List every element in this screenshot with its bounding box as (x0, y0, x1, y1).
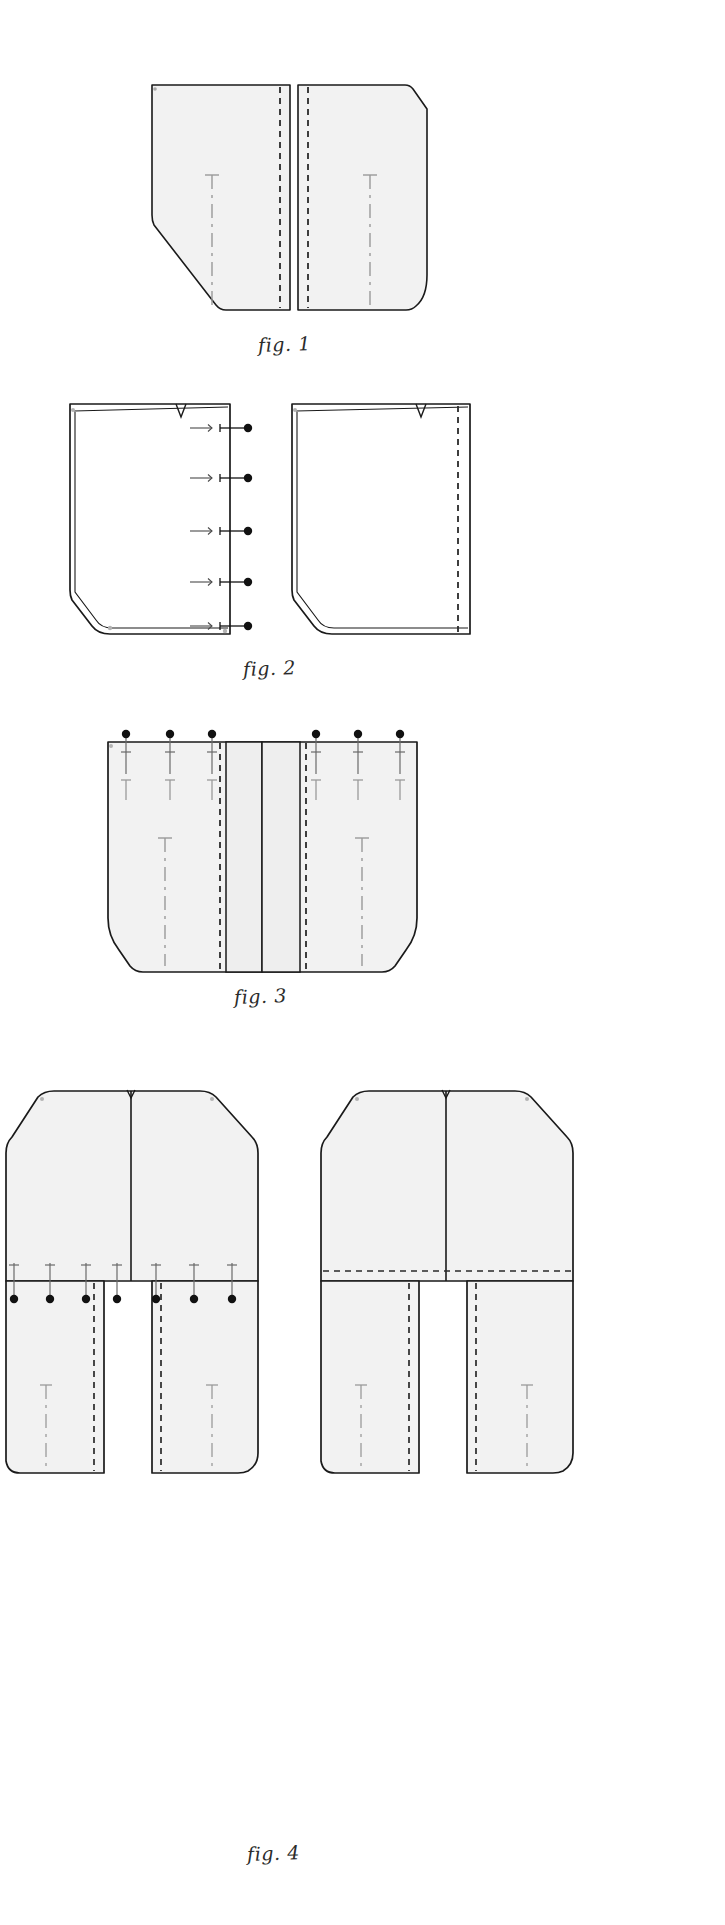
fig4-right-legs (321, 1281, 573, 1473)
figure-3-illustration (100, 728, 425, 986)
fig1-left-corner-dot (153, 87, 157, 91)
fig4-left-bodice (6, 1090, 258, 1281)
fig1-left-piece (152, 85, 290, 310)
figure-2-caption: fig. 2 (243, 656, 297, 680)
pattern-sheet: fig. 1 (0, 0, 725, 1925)
fig3-band-left (226, 742, 262, 972)
figure-4-left-illustration (0, 1085, 270, 1480)
fig3-band-right (262, 742, 300, 972)
fig1-right-piece (298, 85, 427, 310)
figure-1-illustration (130, 75, 430, 325)
figure-4-right-illustration (313, 1085, 585, 1480)
figure-3-caption: fig. 3 (234, 984, 288, 1008)
figure-2-illustration (60, 392, 480, 642)
fig4-left-legs (6, 1281, 258, 1473)
fig2-right-piece (292, 404, 470, 634)
figure-4-caption: fig. 4 (247, 1841, 301, 1865)
fig3-body (108, 730, 417, 972)
fig2-left-piece (70, 404, 252, 634)
figure-1-caption: fig. 1 (258, 332, 312, 356)
fig4-right-bodice (321, 1090, 573, 1281)
